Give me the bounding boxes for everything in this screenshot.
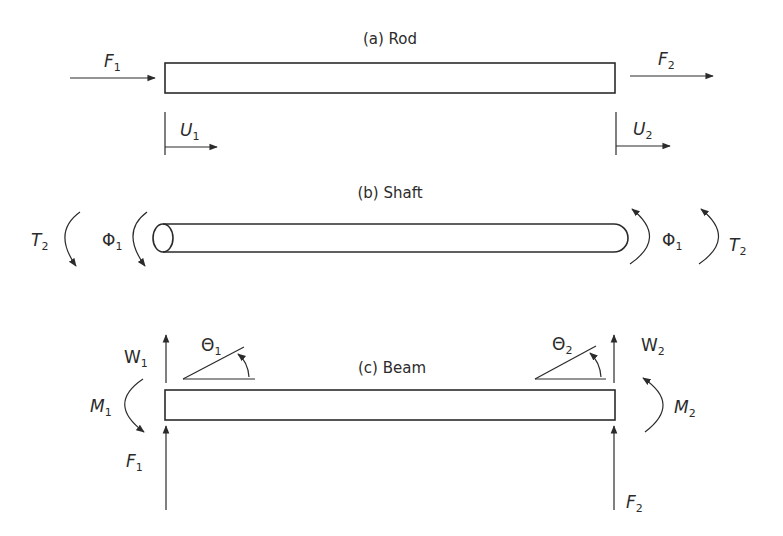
shaft-torque-left-icon <box>65 212 80 266</box>
beam-w1-label: W1 <box>124 347 148 370</box>
shaft-rotation-left-icon <box>133 212 147 266</box>
beam-theta1-label: Θ1 <box>201 335 221 358</box>
beam-panel: (c) Beam W1 W2 Θ1 Θ2 M1 M2 F1 F2 <box>90 334 696 515</box>
beam-m2-arc-icon <box>643 378 663 432</box>
rod-body <box>165 63 615 93</box>
shaft-body <box>163 224 628 252</box>
rod-f2-label: F2 <box>658 49 675 72</box>
beam-body <box>165 390 615 420</box>
beam-theta2-arc-icon <box>590 353 601 377</box>
beam-f1-label: F1 <box>126 451 143 474</box>
element-diagrams: (a) Rod F1 F2 U1 U2 (b) Shaft T2 Φ1 Φ1 T… <box>0 0 783 536</box>
beam-w2-label: W2 <box>641 335 665 358</box>
beam-theta2-label: Θ2 <box>552 334 572 357</box>
shaft-panel: (b) Shaft T2 Φ1 Φ1 T2 <box>31 184 746 266</box>
shaft-t-right-label: T2 <box>729 235 746 258</box>
rod-u2-label: U2 <box>633 119 652 142</box>
shaft-phi-right-label: Φ1 <box>662 230 682 253</box>
beam-title: (c) Beam <box>358 359 426 377</box>
rod-title: (a) Rod <box>363 30 417 48</box>
beam-m2-label: M2 <box>674 397 696 420</box>
beam-f2-label: F2 <box>626 492 643 515</box>
shaft-t-left-label: T2 <box>31 230 48 253</box>
shaft-phi-left-label: Φ1 <box>102 230 122 253</box>
rod-panel: (a) Rod F1 F2 U1 U2 <box>70 30 713 155</box>
shaft-rotation-right-icon <box>630 209 650 264</box>
rod-u1-label: U1 <box>180 120 199 143</box>
rod-f1-label: F1 <box>104 51 121 74</box>
beam-m1-arc-icon <box>125 379 144 432</box>
beam-theta1-arc-icon <box>238 354 249 377</box>
shaft-torque-right-icon <box>699 209 719 264</box>
shaft-end-face <box>153 224 173 252</box>
shaft-title: (b) Shaft <box>357 184 422 202</box>
beam-m1-label: M1 <box>90 396 112 419</box>
